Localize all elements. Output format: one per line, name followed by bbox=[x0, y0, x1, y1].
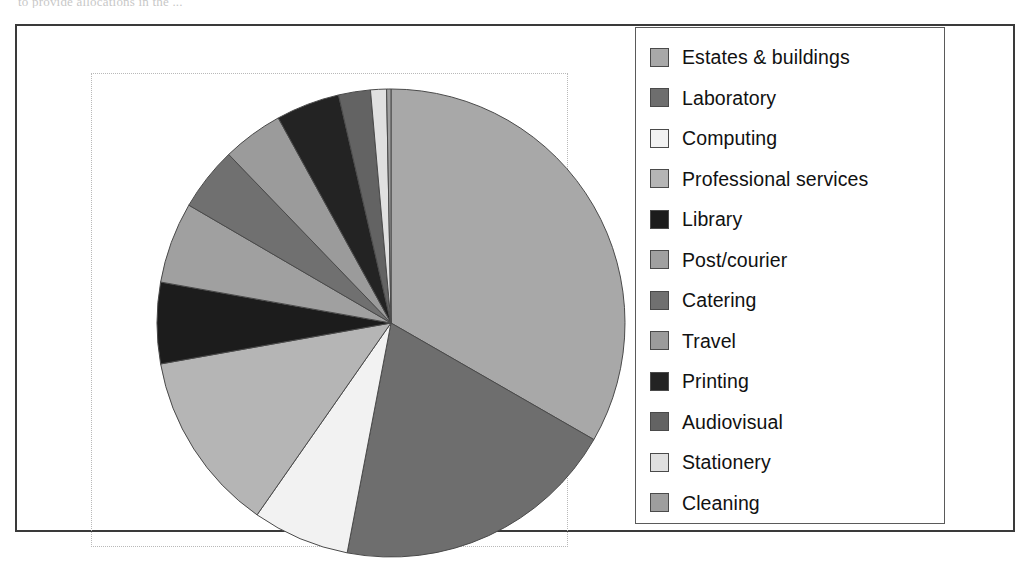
legend-swatch-icon bbox=[650, 331, 669, 350]
legend-item: Laboratory bbox=[650, 78, 944, 119]
legend-swatch-icon bbox=[650, 169, 669, 188]
legend-item: Audiovisual bbox=[650, 402, 944, 443]
legend-item-label: Cleaning bbox=[682, 493, 760, 513]
legend-item-label: Estates & buildings bbox=[682, 47, 850, 67]
legend-item: Cleaning bbox=[650, 483, 944, 524]
legend-item: Stationery bbox=[650, 442, 944, 483]
legend-item-label: Post/courier bbox=[682, 250, 787, 270]
legend-item-label: Computing bbox=[682, 128, 777, 148]
legend-item: Library bbox=[650, 199, 944, 240]
legend-item-label: Printing bbox=[682, 371, 749, 391]
pie-slice-group bbox=[157, 89, 625, 557]
legend-item-label: Audiovisual bbox=[682, 412, 783, 432]
legend-item: Post/courier bbox=[650, 240, 944, 281]
legend-item: Printing bbox=[650, 361, 944, 402]
pie-chart-svg bbox=[154, 86, 628, 562]
legend-item: Estates & buildings bbox=[650, 37, 944, 78]
legend-item: Travel bbox=[650, 321, 944, 362]
chart-legend: Estates & buildingsLaboratoryComputingPr… bbox=[635, 27, 945, 524]
legend-item-label: Professional services bbox=[682, 169, 868, 189]
legend-swatch-icon bbox=[650, 493, 669, 512]
legend-swatch-icon bbox=[650, 48, 669, 67]
legend-swatch-icon bbox=[650, 453, 669, 472]
legend-swatch-icon bbox=[650, 412, 669, 431]
legend-item: Computing bbox=[650, 118, 944, 159]
legend-item: Catering bbox=[650, 280, 944, 321]
legend-list: Estates & buildingsLaboratoryComputingPr… bbox=[650, 37, 944, 523]
legend-item-label: Laboratory bbox=[682, 88, 776, 108]
legend-swatch-icon bbox=[650, 210, 669, 229]
pie-chart bbox=[154, 86, 628, 562]
clipped-caption-text: to provide allocations in the ... bbox=[18, 0, 418, 8]
plot-area bbox=[91, 73, 568, 547]
legend-item: Professional services bbox=[650, 159, 944, 200]
legend-item-label: Stationery bbox=[682, 452, 771, 472]
legend-swatch-icon bbox=[650, 129, 669, 148]
legend-item-label: Library bbox=[682, 209, 742, 229]
legend-item-label: Catering bbox=[682, 290, 757, 310]
legend-swatch-icon bbox=[650, 372, 669, 391]
legend-swatch-icon bbox=[650, 291, 669, 310]
legend-swatch-icon bbox=[650, 250, 669, 269]
legend-item-label: Travel bbox=[682, 331, 736, 351]
legend-swatch-icon bbox=[650, 88, 669, 107]
